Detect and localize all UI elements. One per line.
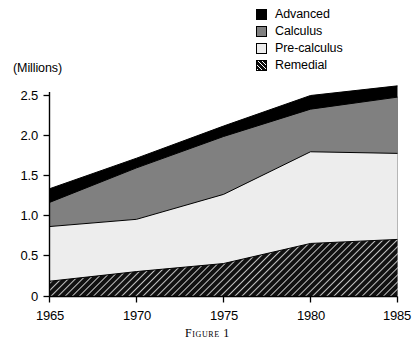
x-tick-label-1975: 1975	[201, 309, 247, 322]
x-tick-label-1965: 1965	[27, 309, 73, 322]
x-tick-label-1970: 1970	[114, 309, 160, 322]
y-tick-label-1.5: 1.5	[4, 169, 38, 182]
y-tick-label-2.0: 2.0	[4, 129, 38, 142]
series-areas	[50, 86, 398, 297]
figure-caption: Figure 1	[0, 326, 415, 341]
y-tick-label-2.5: 2.5	[4, 89, 38, 102]
y-tick-label-0.5: 0.5	[4, 249, 38, 262]
x-tick-label-1980: 1980	[288, 309, 334, 322]
y-tick-label-1.0: 1.0	[4, 209, 38, 222]
figure-container: Advanced Calculus Pre-calculus Remedial …	[0, 0, 415, 349]
y-tick-label-0: 0	[4, 290, 38, 303]
stacked-area-chart	[0, 0, 415, 349]
plot-area: 2.5 2.0 1.5 1.0 0.5 0 1965 1970 1975 198…	[0, 0, 415, 349]
x-tick-label-1985: 1985	[374, 309, 415, 322]
